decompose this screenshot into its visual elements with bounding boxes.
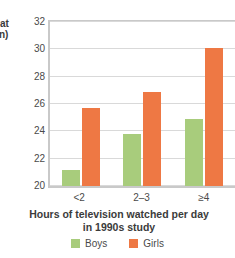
bar-groups bbox=[50, 22, 235, 186]
legend-swatch-boys bbox=[71, 239, 80, 248]
x-axis-category-label: <2 bbox=[59, 192, 99, 203]
legend-label: Boys bbox=[85, 238, 107, 249]
legend-swatch-girls bbox=[129, 239, 138, 248]
x-axis-category-label: ≥4 bbox=[184, 192, 224, 203]
legend-item-boys[interactable]: Boys bbox=[71, 238, 107, 249]
y-axis-tick-label: 32 bbox=[34, 16, 45, 27]
x-axis-category-label: 2–3 bbox=[121, 192, 161, 203]
y-axis-tick-label: 22 bbox=[34, 152, 45, 163]
bar-girls[interactable] bbox=[143, 92, 161, 186]
bar-girls[interactable] bbox=[82, 108, 100, 186]
x-axis-line bbox=[50, 186, 235, 188]
x-axis-title: Hours of television watched per day in 1… bbox=[8, 208, 230, 233]
y-axis-tick-label: 26 bbox=[34, 98, 45, 109]
bar-boys[interactable] bbox=[62, 170, 80, 186]
y-axis-tick-label: 28 bbox=[34, 70, 45, 81]
y-axis-tick-label: 20 bbox=[34, 180, 45, 191]
legend-item-girls[interactable]: Girls bbox=[129, 238, 164, 249]
y-axis-label-fragment-line2: n) bbox=[0, 29, 8, 40]
bar-group bbox=[62, 22, 100, 186]
bar-group bbox=[123, 22, 161, 186]
plot-area: 20222426283032 bbox=[48, 20, 235, 188]
bar-boys[interactable] bbox=[123, 134, 141, 186]
x-axis-title-line2: in 1990s study bbox=[8, 221, 230, 234]
x-axis-title-line1: Hours of television watched per day bbox=[8, 208, 230, 221]
bar-girls[interactable] bbox=[205, 48, 223, 186]
y-axis-tick-label: 24 bbox=[34, 125, 45, 136]
chart-legend: BoysGirls bbox=[0, 238, 235, 249]
legend-label: Girls bbox=[143, 238, 164, 249]
y-axis-label-fragment-line1: at bbox=[0, 18, 9, 29]
bar-group bbox=[185, 22, 223, 186]
bar-boys[interactable] bbox=[185, 119, 203, 186]
x-axis-tick-labels: <22–3≥4 bbox=[48, 192, 235, 203]
y-axis-tick-label: 30 bbox=[34, 43, 45, 54]
bar-chart-figure: at n) 20222426283032 <22–3≥4 Hours of te… bbox=[0, 0, 235, 258]
